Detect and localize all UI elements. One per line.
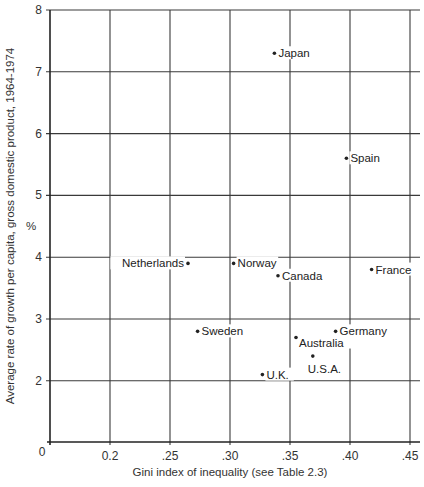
y-tick-labels: 2345678 bbox=[35, 3, 42, 388]
point-label: Spain bbox=[350, 152, 379, 164]
y-axis-unit: % bbox=[26, 220, 36, 232]
y-tick-label: 6 bbox=[35, 127, 42, 141]
point-marker bbox=[345, 157, 349, 161]
point-marker bbox=[334, 330, 338, 334]
data-point: Germany bbox=[334, 324, 387, 337]
x-tick-label: 0.2 bbox=[102, 449, 119, 463]
point-marker bbox=[370, 268, 374, 272]
y-axis-title: Average rate of growth per capita, gross… bbox=[4, 47, 16, 404]
point-label: Sweden bbox=[202, 325, 244, 337]
y-tick-label: 5 bbox=[35, 188, 42, 202]
x-tick-label: .25 bbox=[162, 449, 179, 463]
data-point: U.S.A. bbox=[307, 354, 349, 375]
point-label: U.S.A. bbox=[308, 363, 341, 375]
data-point: France bbox=[370, 263, 416, 276]
x-tick-label: .45 bbox=[402, 449, 419, 463]
y-tick-label: 7 bbox=[35, 65, 42, 79]
y-tick-label: 2 bbox=[35, 374, 42, 388]
data-points: JapanSpainNetherlandsNorwayCanadaFranceS… bbox=[110, 46, 416, 380]
axes bbox=[47, 10, 420, 445]
y-tick-label: 8 bbox=[35, 3, 42, 17]
point-label: Japan bbox=[278, 47, 309, 59]
point-marker bbox=[294, 336, 298, 340]
x-tick-label: .35 bbox=[282, 449, 299, 463]
point-label: Australia bbox=[299, 337, 344, 349]
point-label: Norway bbox=[238, 257, 277, 269]
data-point: Canada bbox=[276, 269, 323, 282]
x-tick-labels: 0.2.25.30.35.40.450 bbox=[39, 445, 419, 463]
point-marker bbox=[196, 330, 200, 334]
point-marker bbox=[311, 354, 315, 358]
point-marker bbox=[232, 262, 236, 266]
y-tick-label: 4 bbox=[35, 250, 42, 264]
y-tick-label: 3 bbox=[35, 312, 42, 326]
x-tick-label: .30 bbox=[222, 449, 239, 463]
origin-label: 0 bbox=[39, 445, 46, 459]
scatter-chart: 2345678 0.2.25.30.35.40.450 JapanSpainNe… bbox=[0, 0, 424, 487]
point-marker bbox=[276, 274, 280, 278]
point-label: U.K. bbox=[266, 369, 288, 381]
data-point: Australia bbox=[294, 336, 359, 349]
point-label: Canada bbox=[282, 270, 323, 282]
data-point: Japan bbox=[273, 46, 313, 59]
data-point: Spain bbox=[345, 151, 385, 164]
point-marker bbox=[261, 373, 265, 377]
point-marker bbox=[273, 51, 277, 55]
data-point: U.K. bbox=[261, 368, 294, 381]
data-point: Sweden bbox=[196, 324, 243, 337]
x-tick-label: .40 bbox=[342, 449, 359, 463]
point-marker bbox=[186, 262, 190, 266]
point-label: France bbox=[376, 264, 412, 276]
data-point: Norway bbox=[232, 256, 278, 269]
data-point: Netherlands bbox=[110, 256, 189, 269]
grid-lines bbox=[46, 10, 420, 445]
x-axis-title: Gini index of inequality (see Table 2.3) bbox=[133, 466, 328, 478]
point-label: Netherlands bbox=[122, 257, 184, 269]
